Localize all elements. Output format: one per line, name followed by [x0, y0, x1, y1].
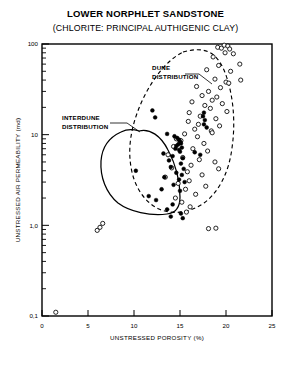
data-point — [229, 69, 233, 73]
y-axis: 0,11,010100 — [28, 40, 49, 319]
data-point — [217, 63, 221, 67]
data-point — [210, 98, 214, 102]
data-point — [206, 227, 210, 231]
data-point — [181, 156, 185, 160]
data-point — [134, 169, 138, 173]
data-point — [231, 52, 235, 56]
data-point — [182, 167, 186, 171]
data-point — [200, 173, 204, 177]
dune-distribution-label-line1: DUNE — [152, 64, 170, 71]
data-point — [227, 81, 231, 85]
x-tick-label: 5 — [86, 322, 90, 329]
data-point — [194, 192, 198, 196]
interdune-envelope — [101, 130, 180, 215]
data-point — [174, 171, 178, 175]
x-tick-label: 0 — [40, 322, 44, 329]
data-point — [203, 103, 207, 107]
data-point — [171, 203, 175, 207]
data-point — [54, 310, 58, 314]
data-point — [188, 205, 192, 209]
data-point — [210, 131, 214, 135]
data-point — [171, 154, 175, 158]
data-point — [218, 86, 222, 90]
y-tick-label: 100 — [28, 40, 39, 47]
data-point — [205, 68, 209, 72]
data-point — [228, 47, 232, 51]
x-tick-label: 15 — [177, 322, 184, 329]
data-point — [200, 93, 204, 97]
interdune-distribution-label-line2: DISTRIBUTION — [62, 123, 109, 130]
data-point — [165, 132, 169, 136]
data-point — [217, 167, 221, 171]
data-point — [206, 149, 210, 153]
x-tick-label: 25 — [269, 322, 276, 329]
data-point — [153, 116, 157, 120]
data-point — [194, 84, 198, 88]
data-point — [172, 183, 176, 187]
data-point — [198, 153, 202, 157]
data-point — [174, 147, 178, 151]
chart-figure: LOWER NORPHLET SANDSTONE (CHLORITE: PRIN… — [0, 0, 291, 365]
data-point — [187, 111, 191, 115]
data-point — [184, 210, 188, 214]
y-tick-label: 1,0 — [29, 222, 38, 229]
data-point — [180, 200, 184, 204]
data-point — [206, 89, 210, 93]
x-axis-title: UNSTRESSED POROSITY (%) — [110, 334, 204, 341]
data-point — [208, 106, 212, 110]
data-point — [213, 77, 217, 81]
data-point — [217, 124, 221, 128]
data-point — [202, 111, 206, 115]
interdune-distribution-label-line1: INTERDUNE — [62, 114, 100, 121]
x-axis: 0510152025 — [40, 310, 276, 329]
data-point — [238, 62, 242, 66]
data-point — [147, 194, 151, 198]
data-point — [214, 117, 218, 121]
data-point — [223, 51, 227, 55]
y-tick-label: 10 — [31, 131, 38, 138]
data-point — [167, 159, 171, 163]
data-point — [190, 100, 194, 104]
data-point — [178, 150, 182, 154]
data-point — [165, 207, 169, 211]
data-point — [178, 189, 182, 193]
data-point — [214, 226, 218, 230]
data-point — [193, 127, 197, 131]
data-point — [211, 55, 215, 59]
data-point — [151, 109, 155, 113]
data-point — [215, 95, 219, 99]
data-point — [202, 141, 206, 145]
data-point — [169, 215, 173, 219]
data-point — [202, 122, 206, 126]
data-point — [160, 187, 164, 191]
data-point — [220, 102, 224, 106]
y-axis-title: UNSTRESSED AIR PERMEABILITY (md) — [14, 118, 21, 243]
data-point — [183, 132, 187, 136]
data-point — [183, 187, 187, 191]
x-tick-label: 20 — [223, 322, 230, 329]
data-point — [189, 163, 193, 167]
scatter-plot: 0,11,010100 0510152025 UNSTRESSED POROSI… — [0, 0, 291, 365]
data-point — [195, 135, 199, 139]
data-point — [193, 150, 197, 154]
data-point — [176, 181, 180, 185]
data-point — [197, 158, 201, 162]
y-tick-label: 0,1 — [29, 312, 38, 319]
data-point — [169, 165, 173, 169]
data-point — [183, 180, 187, 184]
data-point — [179, 162, 183, 166]
data-point — [180, 173, 184, 177]
data-point — [203, 118, 207, 122]
data-point — [162, 152, 166, 156]
data-point — [98, 225, 102, 229]
data-point — [181, 216, 185, 220]
data-point — [185, 170, 189, 174]
dune-distribution-label-line2: DISTRIBUTION — [152, 73, 199, 80]
data-point — [173, 196, 177, 200]
data-point — [196, 122, 200, 126]
plot-frame — [42, 44, 272, 316]
data-point — [154, 198, 158, 202]
data-point — [204, 184, 208, 188]
data-point — [101, 221, 105, 225]
data-point — [187, 179, 191, 183]
